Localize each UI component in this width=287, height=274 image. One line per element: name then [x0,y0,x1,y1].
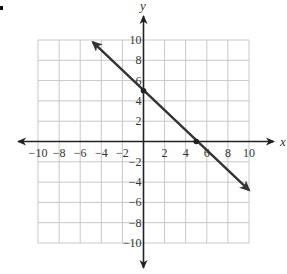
y-tick-label: 8 [136,53,142,67]
x-tick-label: −8 [53,146,66,160]
x-tick-label: 4 [183,146,189,160]
marked-point [193,139,199,145]
coordinate-plane: −10−8−6−4−2246810108642−2−4−6−8−10 x y [0,0,287,274]
y-tick-label: 2 [136,114,142,128]
x-tick-label: 8 [225,146,231,160]
x-tick-label: 10 [243,146,255,160]
y-tick-label: −8 [129,216,142,230]
plotted-line [93,42,249,190]
x-tick-label: 2 [162,146,168,160]
marked-point [141,88,147,94]
y-tick-label: −10 [123,236,142,250]
x-tick-label: −2 [116,146,129,160]
x-tick-label: −4 [95,146,108,160]
x-tick-label: −6 [74,146,87,160]
y-tick-label: −2 [129,155,142,169]
y-tick-label: 10 [130,33,142,47]
y-tick-label: −4 [129,175,142,189]
y-axis-label: y [138,0,146,13]
axes [18,16,274,268]
y-tick-label: −6 [129,195,142,209]
x-axis-label: x [279,134,286,149]
y-tick-label: 4 [136,94,142,108]
line-series [93,42,249,190]
x-tick-label: −10 [29,146,48,160]
